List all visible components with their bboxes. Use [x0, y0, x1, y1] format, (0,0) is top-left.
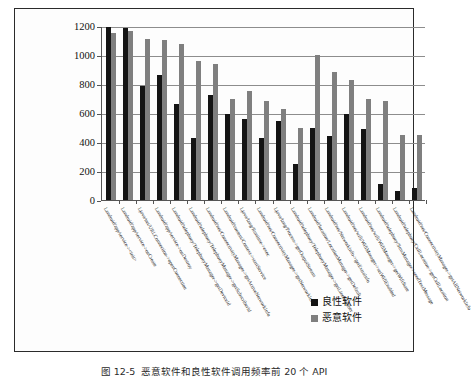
bar-group — [307, 27, 324, 200]
x-axis-tick-mark — [136, 200, 137, 204]
x-axis-tick-mark — [307, 200, 308, 204]
x-axis-tick-mark — [324, 200, 325, 204]
bar-group — [238, 27, 255, 200]
y-axis-tick-mark — [97, 27, 101, 28]
bar-group — [187, 27, 204, 200]
bar-malware[interactable] — [366, 99, 371, 201]
x-axis-tick-mark — [238, 200, 239, 204]
bar-malware[interactable] — [145, 39, 150, 200]
x-axis-tick-mark — [153, 200, 154, 204]
bar-group — [392, 27, 409, 200]
y-axis-tick-mark — [97, 172, 101, 173]
x-axis-tick-mark — [426, 200, 427, 204]
x-axis-tick-label: Landroid/telephony/TelephonyManager->get… — [188, 206, 253, 313]
bar-malware[interactable] — [349, 80, 354, 200]
x-axis-tick-mark — [409, 200, 410, 204]
bar-group — [255, 27, 272, 200]
bar-group — [290, 27, 307, 200]
bar-malware[interactable] — [417, 135, 422, 200]
legend-label: 恶意软件 — [322, 313, 362, 323]
y-axis-tick-mark — [97, 143, 101, 144]
y-axis-tick-label: 1000 — [51, 51, 95, 61]
bar-group — [102, 27, 119, 200]
x-axis-tick-label: Landroid/net/ConnectivityManager->getAct… — [205, 206, 273, 317]
bar-group — [324, 27, 341, 200]
bar-malware[interactable] — [315, 55, 320, 200]
bar-group — [136, 27, 153, 200]
bar-group — [119, 27, 136, 200]
y-axis-tick-label: 600 — [51, 109, 95, 119]
y-axis-tick-mark — [97, 56, 101, 57]
plot-area — [101, 27, 425, 201]
bar-malware[interactable] — [162, 40, 167, 200]
x-axis-tick-label: Ljava/lang/Runtime->exec — [239, 206, 272, 257]
y-axis-tick-label: 400 — [51, 138, 95, 148]
bar-malware[interactable] — [383, 101, 388, 200]
x-axis-tick-label: Landroid/app/service-><init> — [102, 206, 138, 262]
legend-swatch-icon — [311, 315, 318, 322]
bar-group — [204, 27, 221, 200]
y-axis-tick-mark — [97, 114, 101, 115]
x-axis-tick-mark — [358, 200, 359, 204]
x-axis-tick-mark — [290, 200, 291, 204]
bar-malware[interactable] — [128, 31, 133, 200]
bar-malware[interactable] — [281, 109, 286, 200]
bar-group — [221, 27, 238, 200]
caption-text: 恶意软件和良性软件调用频率前 20 个 API — [141, 366, 327, 377]
bar-malware[interactable] — [264, 101, 269, 200]
y-axis-tick-label: 800 — [51, 80, 95, 90]
x-axis-tick-mark — [187, 200, 188, 204]
figure-caption: 图 12-5恶意软件和良性软件调用频率前 20 个 API — [0, 366, 428, 378]
bar-malware[interactable] — [298, 128, 303, 201]
bar-group — [409, 27, 426, 200]
bar-malware[interactable] — [332, 72, 337, 200]
y-axis-tick-label: 0 — [51, 196, 95, 206]
legend-swatch-icon — [311, 299, 318, 306]
bar-group — [273, 27, 290, 200]
bar-group — [170, 27, 187, 200]
y-axis-tick-mark — [97, 85, 101, 86]
y-axis-tick-mark — [97, 201, 101, 202]
x-axis-tick-mark — [273, 200, 274, 204]
legend-label: 良性软件 — [322, 297, 362, 307]
bar-series-group — [102, 27, 425, 200]
bar-malware[interactable] — [247, 91, 252, 200]
chart-frame: 020040060080010001200 Landroid/app/servi… — [14, 8, 414, 352]
x-axis-tick-mark — [221, 200, 222, 204]
chart-legend: 良性软件恶意软件 — [311, 297, 421, 329]
x-axis-tick-mark — [119, 200, 120, 204]
legend-entry[interactable]: 恶意软件 — [311, 313, 421, 323]
caption-number: 图 12-5 — [101, 366, 136, 377]
bar-malware[interactable] — [111, 33, 116, 200]
legend-entry[interactable]: 良性软件 — [311, 297, 421, 307]
y-axis-tick-label: 1200 — [51, 22, 95, 32]
bar-group — [375, 27, 392, 200]
x-axis-tick-mark — [170, 200, 171, 204]
bar-malware[interactable] — [213, 64, 218, 200]
bar-group — [153, 27, 170, 200]
bar-malware[interactable] — [400, 135, 405, 200]
y-axis-tick-label: 200 — [51, 167, 95, 177]
x-axis-tick-mark — [375, 200, 376, 204]
x-axis-tick-mark — [341, 200, 342, 204]
bar-malware[interactable] — [179, 44, 184, 200]
x-axis-tick-mark — [392, 200, 393, 204]
bar-malware[interactable] — [196, 61, 201, 200]
x-axis-tick-mark — [204, 200, 205, 204]
bar-malware[interactable] — [230, 99, 235, 201]
x-axis-tick-mark — [255, 200, 256, 204]
bar-group — [358, 27, 375, 200]
bar-group — [341, 27, 358, 200]
